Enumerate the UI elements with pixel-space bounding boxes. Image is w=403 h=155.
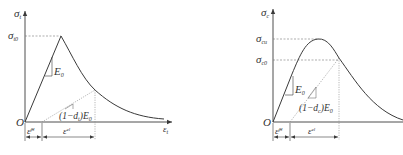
compression-chart: σc σcu σc0 E0 (1−dc)E0 O ε̃pl εel	[256, 6, 403, 141]
compression-e0-slope-triangle	[285, 76, 293, 95]
compression-elastic-strain-label: εel	[308, 126, 316, 136]
tension-plastic-strain-label: ε̃pl	[27, 126, 35, 136]
tension-elastic-strain-label: εel	[63, 126, 71, 136]
tension-origin-label: O	[16, 116, 24, 128]
tension-unload-slope-triangle	[65, 104, 73, 109]
tension-peak-label: σt0	[8, 29, 18, 42]
tension-e0-label: E0	[53, 65, 64, 78]
tension-curve	[25, 36, 164, 122]
compression-y-axis-label: σc	[261, 6, 269, 19]
compression-unload-slope-triangle	[308, 87, 316, 98]
compression-peak-label: σcu	[256, 32, 267, 45]
tension-x-axis-label: εt	[163, 124, 169, 135]
tension-unload-slope-label: (1−dt)E0	[59, 111, 92, 122]
compression-yield-label: σc0	[256, 53, 267, 66]
compression-plastic-strain-label: ε̃pl	[275, 126, 283, 136]
compression-curve	[273, 39, 403, 122]
tension-chart: σt σt0 E0 (1−dt)E0 O εt ε̃pl εel	[8, 7, 172, 141]
stress-strain-diagram: σt σt0 E0 (1−dt)E0 O εt ε̃pl εel σc σcu …	[0, 0, 403, 155]
tension-y-axis-label: σt	[14, 7, 21, 20]
compression-e0-label: E0	[294, 83, 305, 96]
compression-unload-slope-label: (1−dc)E0	[299, 103, 333, 114]
compression-origin-label: O	[263, 116, 271, 128]
